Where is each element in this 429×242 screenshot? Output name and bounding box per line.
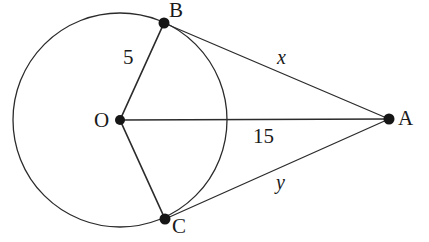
segment-ca xyxy=(165,119,389,219)
geometry-canvas xyxy=(0,0,429,242)
point-dot-c xyxy=(160,214,171,225)
label-point-c: C xyxy=(172,216,186,237)
label-point-b: B xyxy=(169,0,183,21)
segment-oa xyxy=(120,119,389,120)
geometry-diagram: O B C A 5 15 x y xyxy=(0,0,429,242)
segment-ba xyxy=(164,23,389,119)
label-point-o: O xyxy=(94,110,109,131)
label-distance-oa: 15 xyxy=(253,126,274,147)
segment-ob xyxy=(120,23,164,120)
point-dot-b xyxy=(159,18,170,29)
label-tangent-ba: x xyxy=(277,47,286,67)
label-point-a: A xyxy=(398,108,413,129)
point-dot-a xyxy=(384,114,395,125)
segment-oc xyxy=(120,120,165,219)
label-tangent-ca: y xyxy=(276,172,285,192)
label-radius-ob: 5 xyxy=(123,47,134,68)
point-dot-o xyxy=(115,115,125,125)
